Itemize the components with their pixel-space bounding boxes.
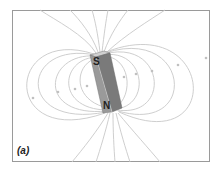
- south-pole-label: S: [93, 56, 100, 67]
- north-pole-label: N: [103, 100, 110, 111]
- panel-label: (a): [17, 145, 29, 156]
- magnetic-field-diagram: [0, 0, 219, 171]
